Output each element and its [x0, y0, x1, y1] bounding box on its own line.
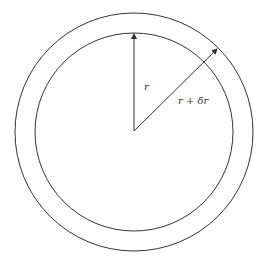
inner-radius-label: r — [144, 81, 150, 92]
concentric-circles-diagram: r r + δr — [0, 0, 266, 264]
outer-radius-label: r + δr — [178, 95, 210, 106]
